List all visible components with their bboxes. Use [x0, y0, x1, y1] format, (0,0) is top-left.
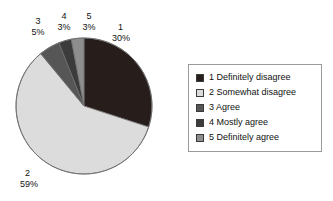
- legend-item-4: 4 Mostly agree: [196, 115, 315, 130]
- legend-swatch-icon-2: [196, 89, 204, 97]
- pie-slices-group: [16, 38, 152, 174]
- legend-swatch-icon-1: [196, 74, 204, 82]
- slice-label-1: 1 30%: [112, 22, 130, 43]
- slice-label-5-name: 5: [79, 11, 99, 22]
- slice-label-2-percent: 59%: [20, 179, 38, 190]
- legend-item-5: 5 Definitely agree: [196, 130, 315, 145]
- slice-label-1-percent: 30%: [112, 33, 130, 44]
- legend-swatch-icon-5: [196, 134, 204, 142]
- slice-label-2-name: 2: [25, 168, 38, 179]
- chart-legend: 1 Definitely disagree 2 Somewhat disagre…: [188, 64, 322, 152]
- slice-label-5: 5 3%: [79, 11, 99, 32]
- legend-label-3: 3 Agree: [209, 102, 240, 113]
- slice-label-5-percent: 3%: [79, 22, 99, 33]
- slice-label-1-name: 1: [118, 22, 130, 33]
- slice-label-2: 2 59%: [20, 168, 38, 189]
- slice-label-4-percent: 3%: [54, 22, 74, 33]
- legend-item-2: 2 Somewhat disagree: [196, 85, 315, 100]
- legend-label-1: 1 Definitely disagree: [209, 72, 291, 83]
- legend-label-5: 5 Definitely agree: [209, 132, 279, 143]
- legend-label-2: 2 Somewhat disagree: [209, 87, 296, 98]
- slice-label-4: 4 3%: [54, 11, 74, 32]
- pie-chart-figure: 1 30% 2 59% 3 5% 4 3% 5 3% 1 Definitely …: [0, 0, 333, 201]
- legend-label-4: 4 Mostly agree: [209, 117, 268, 128]
- legend-item-3: 3 Agree: [196, 100, 315, 115]
- legend-swatch-icon-3: [196, 104, 204, 112]
- slice-label-3: 3 5%: [28, 16, 48, 37]
- slice-label-3-name: 3: [28, 16, 48, 27]
- legend-swatch-icon-4: [196, 119, 204, 127]
- slice-label-3-percent: 5%: [28, 27, 48, 38]
- legend-item-1: 1 Definitely disagree: [196, 70, 315, 85]
- pie-plot-area: 1 30% 2 59% 3 5% 4 3% 5 3%: [0, 0, 185, 201]
- slice-label-4-name: 4: [54, 11, 74, 22]
